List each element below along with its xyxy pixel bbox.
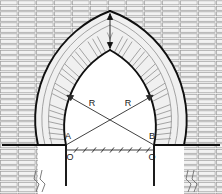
label-springing-left: A — [65, 131, 71, 141]
label-center-left: O — [66, 152, 73, 162]
label-radius-right: R — [125, 98, 132, 108]
label-radius-left: R — [89, 98, 96, 108]
arch-diagram-canvas: R R A B O O — [0, 0, 222, 194]
pier-edges — [66, 145, 154, 186]
label-center-right: O — [148, 152, 155, 162]
dimension-line — [66, 147, 154, 152]
dimension-tick-marks — [74, 147, 150, 152]
label-springing-right: B — [149, 131, 155, 141]
arch-diagram: R R A B O O — [0, 0, 222, 194]
